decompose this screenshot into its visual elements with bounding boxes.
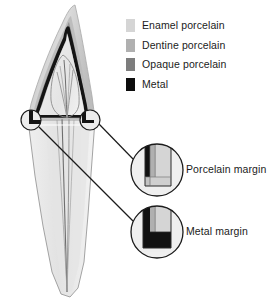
legend-item-opaque-porcelain: Opaque porcelain	[126, 55, 270, 75]
legend-item-metal: Metal	[126, 75, 270, 95]
legend-item-dentine-porcelain: Dentine porcelain	[126, 36, 270, 56]
tooth-root-group	[28, 118, 95, 297]
legend-label-metal: Metal	[142, 78, 168, 91]
leader-line-porcelain-margin	[99, 124, 133, 159]
crown-group	[28, 5, 95, 119]
materials-legend: Enamel porcelain Dentine porcelain Opaqu…	[126, 16, 270, 94]
legend-label-opaque-porcelain: Opaque porcelain	[142, 58, 227, 71]
detail-circle-metal-margin	[131, 206, 183, 258]
callout-label-metal-margin: Metal margin	[186, 225, 248, 237]
legend-swatch-opaque-porcelain	[126, 58, 135, 71]
legend-label-enamel-porcelain: Enamel porcelain	[142, 19, 225, 32]
source-marker-porcelain-margin	[80, 110, 100, 130]
legend-item-enamel-porcelain: Enamel porcelain	[126, 16, 270, 36]
detail-circle-porcelain-margin	[131, 144, 183, 196]
legend-label-dentine-porcelain: Dentine porcelain	[142, 39, 225, 52]
legend-swatch-dentine-porcelain	[126, 39, 135, 52]
legend-swatch-enamel-porcelain	[126, 19, 135, 32]
legend-swatch-metal	[126, 78, 135, 91]
callout-label-porcelain-margin: Porcelain margin	[186, 163, 266, 175]
dental-crown-diagram: Enamel porcelain Dentine porcelain Opaqu…	[0, 0, 272, 305]
